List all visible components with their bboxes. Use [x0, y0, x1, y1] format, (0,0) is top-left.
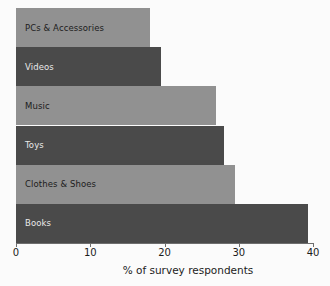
bar-row: PCs & Accessories: [16, 8, 313, 47]
bar-row: Clothes & Shoes: [16, 165, 313, 204]
bar: Clothes & Shoes: [16, 165, 235, 204]
bar: Videos: [16, 47, 161, 86]
bar-label: Videos: [25, 62, 54, 71]
plot-area: PCs & AccessoriesVideosMusicToysClothes …: [16, 8, 313, 243]
bar-row: Books: [16, 204, 313, 243]
x-axis-title: % of survey respondents: [0, 265, 330, 276]
x-axis-tick-label: 0: [13, 248, 19, 258]
bar: PCs & Accessories: [16, 8, 150, 47]
x-axis-tick-label: 40: [307, 248, 320, 258]
bar-row: Music: [16, 86, 313, 125]
bar-label: Clothes & Shoes: [25, 180, 96, 189]
bar: Music: [16, 86, 216, 125]
bar-label: Music: [25, 102, 50, 111]
bar-chart: PCs & AccessoriesVideosMusicToysClothes …: [0, 0, 330, 286]
bar-row: Videos: [16, 47, 313, 86]
bar-label: PCs & Accessories: [25, 23, 104, 32]
bar-row: Toys: [16, 126, 313, 165]
bar-label: Toys: [25, 141, 44, 150]
x-axis-title-text: % of survey respondents: [123, 265, 254, 276]
bar-label: Books: [25, 219, 51, 228]
bar: Books: [16, 204, 308, 243]
x-axis-tick-label: 10: [84, 248, 97, 258]
bar: Toys: [16, 126, 224, 165]
x-axis-tick-label: 30: [232, 248, 245, 258]
x-axis-tick-label: 20: [158, 248, 171, 258]
